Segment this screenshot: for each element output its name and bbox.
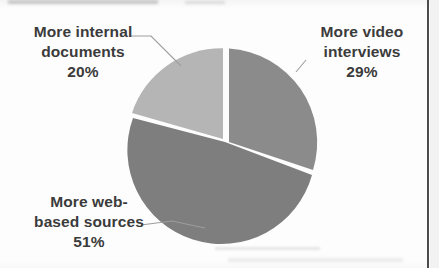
pie-label-internal-documents-line1: More internal <box>34 23 133 40</box>
pie-label-video-interviews-line2: interviews <box>324 43 401 60</box>
pie-label-web-based-sources: More web- based sources 51% <box>10 192 168 252</box>
scan-artifact-top-secondary <box>185 1 225 4</box>
page-edge-margin <box>430 0 439 268</box>
pie-label-video-interviews-percent: 29% <box>296 62 428 82</box>
scan-artifact-top <box>8 0 158 4</box>
pie-label-video-interviews-line1: More video <box>321 23 404 40</box>
pie-label-video-interviews: More video interviews 29% <box>296 22 428 82</box>
scan-artifact-bottom-secondary <box>228 258 403 262</box>
pie-label-web-based-sources-line2: based sources <box>34 213 144 230</box>
scan-artifact-bottom <box>215 247 320 250</box>
pie-label-web-based-sources-line1: More web- <box>50 193 128 210</box>
pie-chart-figure: More internal documents 20% More video i… <box>0 0 439 268</box>
pie-label-internal-documents: More internal documents 20% <box>8 22 158 82</box>
page-edge-line <box>427 0 429 268</box>
pie-label-internal-documents-line2: documents <box>41 43 125 60</box>
pie-label-internal-documents-percent: 20% <box>8 62 158 82</box>
pie-label-web-based-sources-percent: 51% <box>10 232 168 252</box>
